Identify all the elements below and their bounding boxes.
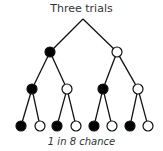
filled-node-icon bbox=[52, 121, 62, 131]
diagram-caption: 1 in 8 chance bbox=[0, 136, 163, 147]
tree-branch bbox=[139, 94, 146, 121]
empty-node-icon bbox=[35, 121, 45, 131]
tree-branch bbox=[83, 19, 113, 49]
tree-branch bbox=[104, 94, 111, 121]
tree-branch bbox=[58, 94, 65, 121]
empty-node-icon bbox=[112, 47, 122, 57]
tree-branch bbox=[54, 19, 83, 48]
tree-branch bbox=[52, 57, 65, 85]
tree-branch bbox=[68, 94, 75, 121]
tree-branch bbox=[105, 57, 115, 85]
empty-node-icon bbox=[133, 84, 143, 94]
filled-node-icon bbox=[27, 84, 37, 94]
tree-branch bbox=[131, 94, 137, 121]
filled-node-icon bbox=[125, 121, 135, 131]
probability-tree bbox=[0, 0, 163, 151]
empty-node-icon bbox=[143, 121, 153, 131]
tree-branch bbox=[95, 94, 102, 121]
filled-node-icon bbox=[89, 121, 99, 131]
tree-branch bbox=[33, 94, 39, 121]
filled-node-icon bbox=[16, 121, 26, 131]
filled-node-icon bbox=[98, 84, 108, 94]
empty-node-icon bbox=[62, 84, 72, 94]
empty-node-icon bbox=[71, 121, 81, 131]
tree-branch bbox=[119, 56, 135, 84]
tree-branch bbox=[34, 56, 48, 84]
tree-branch bbox=[22, 94, 30, 121]
filled-node-icon bbox=[45, 47, 55, 57]
empty-node-icon bbox=[107, 121, 117, 131]
